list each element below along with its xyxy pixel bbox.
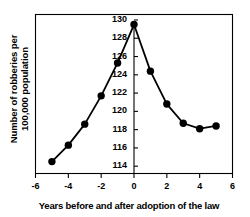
y-axis-tick-label: 118 [101, 124, 127, 134]
data-point-marker [163, 100, 170, 107]
x-axis-tick-label: 2 [157, 181, 177, 191]
x-axis-tick-label: 6 [223, 181, 243, 191]
data-point-marker [212, 122, 219, 129]
y-axis-label-line2: 100,000 population [19, 9, 30, 169]
data-point-marker [65, 141, 72, 148]
y-axis-tick-label: 116 [101, 142, 127, 152]
x-axis-label: Years before and after adoption of the l… [18, 200, 240, 211]
data-point-marker [48, 158, 55, 165]
y-axis-tick-label: 122 [101, 87, 127, 97]
data-point-marker [147, 67, 154, 74]
data-point-marker [130, 21, 137, 28]
y-axis-tick-label: 124 [101, 69, 127, 79]
data-point-marker [180, 120, 187, 127]
y-axis-label-line1: Number of robberies per [8, 9, 19, 169]
x-axis-tick-label: -6 [26, 181, 46, 191]
y-axis-tick-label: 126 [101, 51, 127, 61]
data-point-marker [196, 125, 203, 132]
y-axis-tick-label: 120 [101, 105, 127, 115]
x-axis-tick-label: -2 [91, 181, 111, 191]
data-point-marker [81, 120, 88, 127]
chart-figure: Number of robberies per 100,000 populati… [0, 0, 250, 217]
x-axis-tick-label: 0 [124, 181, 144, 191]
y-axis-tick-label: 128 [101, 32, 127, 42]
y-axis-tick-label: 130 [101, 14, 127, 24]
x-axis-tick-label: 4 [190, 181, 210, 191]
y-axis-tick-label: 114 [101, 160, 127, 170]
y-axis-label: Number of robberies per 100,000 populati… [8, 9, 30, 169]
x-axis-tick-label: -4 [58, 181, 78, 191]
